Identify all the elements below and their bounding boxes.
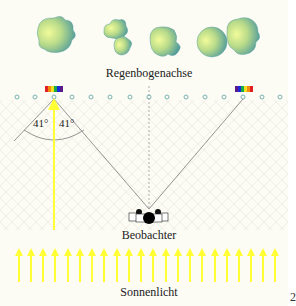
observer-label: Beobachter xyxy=(109,228,189,243)
droplet-row xyxy=(15,95,282,99)
angle-label-left: 41° xyxy=(33,117,48,129)
sunlight-label: Sonnenlicht xyxy=(104,285,194,300)
angle-label-right: 41° xyxy=(59,117,74,129)
cloud-2b xyxy=(114,36,132,55)
cloud-4b xyxy=(227,18,260,55)
spectrum-right xyxy=(235,86,253,92)
rainbow-axis-label: Regenbogenachse xyxy=(99,66,199,81)
diagram-panel: Regenbogenachse 41° 41° Beobachter Sonne… xyxy=(0,0,288,306)
cloud-3 xyxy=(150,27,180,56)
spectrum-left xyxy=(45,86,63,92)
sunlight-arrows xyxy=(15,248,279,282)
cloud-4a xyxy=(197,27,227,57)
rainbow-diagram xyxy=(0,0,288,306)
page-number: 2 xyxy=(290,290,296,305)
cloud-1 xyxy=(37,16,75,52)
cloud-2a xyxy=(104,20,128,39)
clouds xyxy=(37,16,259,57)
